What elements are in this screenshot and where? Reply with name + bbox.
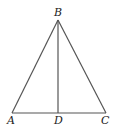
label-d: D — [53, 114, 63, 127]
label-a: A — [6, 114, 15, 127]
segment-ab — [12, 20, 58, 113]
triangle-diagram: B A D C — [0, 0, 113, 131]
label-c: C — [101, 114, 110, 127]
label-b: B — [53, 6, 62, 19]
segment-bc — [58, 20, 106, 113]
